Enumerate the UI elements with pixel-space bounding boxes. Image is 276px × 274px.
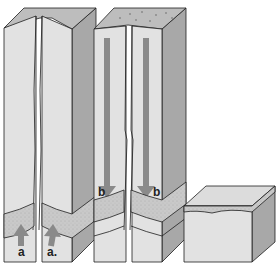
label-b-left: b xyxy=(98,185,105,199)
block-1: a a. xyxy=(4,8,96,262)
block-2-side-face xyxy=(162,8,186,262)
label-b-right: b xyxy=(153,185,160,199)
label-a-right: a. xyxy=(47,245,57,259)
label-a-left: a xyxy=(18,245,25,259)
block-3 xyxy=(184,186,275,262)
block-3-front-face xyxy=(184,206,252,262)
block-2: b b xyxy=(94,8,186,262)
geology-block-diagram: a a. b b xyxy=(0,0,276,274)
